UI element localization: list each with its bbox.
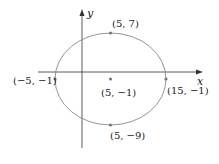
center-label: (5, −1)	[101, 87, 136, 98]
left-vertex-label: (−5, −1)	[13, 75, 57, 86]
bottom-co-vertex-label: (5, −9)	[110, 130, 145, 141]
right-vertex-label: (15, −1)	[167, 85, 209, 96]
right-vertex-point	[164, 77, 167, 80]
y-axis-label: y	[86, 7, 94, 20]
top-co-vertex-label: (5, 7)	[112, 18, 139, 29]
ellipse-diagram: x y (5, 7) (5, −9) (−5, −1) (15, −1) (5,…	[0, 0, 219, 164]
y-axis-arrow-icon	[80, 9, 85, 16]
bottom-co-vertex-point	[109, 123, 112, 126]
x-axis-arrow-icon	[196, 70, 203, 75]
center-point	[109, 77, 112, 80]
top-co-vertex-point	[109, 31, 112, 34]
